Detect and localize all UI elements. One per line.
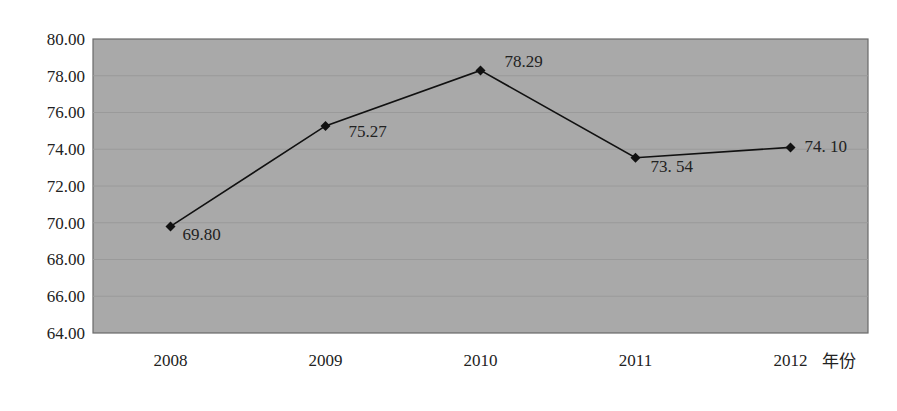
y-tick-label: 76.00 <box>47 103 85 122</box>
x-tick-label: 2008 <box>154 351 188 370</box>
line-chart: 64.0066.0068.0070.0072.0074.0076.0078.00… <box>0 0 897 411</box>
x-tick-label: 2010 <box>464 351 498 370</box>
y-tick-label: 80.00 <box>47 30 85 49</box>
data-label: 69.80 <box>183 225 221 244</box>
x-tick-label: 2009 <box>309 351 343 370</box>
y-tick-label: 78.00 <box>47 67 85 86</box>
y-tick-label: 72.00 <box>47 177 85 196</box>
y-tick-label: 74.00 <box>47 140 85 159</box>
y-tick-label: 64.00 <box>47 324 85 343</box>
data-label: 75.27 <box>349 122 388 141</box>
y-tick-label: 70.00 <box>47 214 85 233</box>
x-tick-label: 2012 <box>774 351 808 370</box>
y-tick-label: 66.00 <box>47 287 85 306</box>
data-label: 73. 54 <box>651 157 694 176</box>
data-label: 78.29 <box>505 52 543 71</box>
x-axis-label: 年份 <box>822 351 856 371</box>
x-axis-ticks: 20082009201020112012 <box>154 351 808 370</box>
y-tick-label: 68.00 <box>47 250 85 269</box>
x-tick-label: 2011 <box>619 351 652 370</box>
data-label: 74. 10 <box>805 137 848 156</box>
y-axis-ticks: 64.0066.0068.0070.0072.0074.0076.0078.00… <box>47 30 85 343</box>
